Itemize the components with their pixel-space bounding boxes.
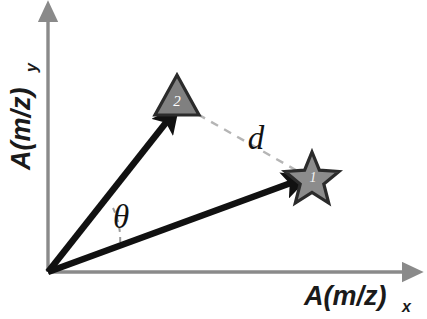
distance-dashed-line — [185, 107, 301, 173]
x-axis-label-sub: x — [401, 298, 412, 315]
y-axis-label-sub: y — [23, 62, 40, 73]
x-axis-label: A(m/z) x — [303, 281, 412, 315]
y-axis-label: A(m/z) y — [6, 62, 40, 171]
marker-triangle-2: 2 — [155, 75, 199, 115]
theta-label: θ — [113, 199, 129, 235]
triangle-label: 2 — [173, 93, 181, 109]
axis-group — [48, 18, 406, 272]
vector-diagram: 2 1 θ d A(m/z) x A(m/z) y — [0, 0, 427, 319]
x-axis-label-main: A(m/z) — [303, 281, 387, 311]
diagram-canvas: 2 1 θ d A(m/z) x A(m/z) y — [0, 0, 427, 319]
star-label: 1 — [310, 170, 317, 185]
y-axis-label-main: A(m/z) — [6, 88, 36, 172]
marker-star-1: 1 — [285, 152, 339, 203]
distance-label: d — [248, 120, 265, 156]
